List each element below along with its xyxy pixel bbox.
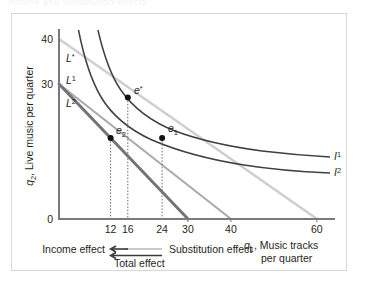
budget-line-l1 (59, 84, 231, 219)
indifference-curve-i1 (98, 30, 330, 157)
point-e2[interactable] (108, 135, 114, 141)
y-tick-label-0: 0 (47, 213, 53, 225)
point-e-star[interactable] (125, 95, 131, 101)
budget-line-l2 (59, 84, 188, 219)
figure-panel: 40 30 0 12 16 24 30 40 60 q2, Live music… (11, 13, 347, 271)
total-effect-label: Total effect (114, 257, 165, 269)
point-label-e1: e1 (168, 122, 178, 137)
l1-sup: 1 (72, 74, 76, 83)
e1-sub: 1 (174, 128, 178, 137)
indifference-curve-i2 (79, 30, 331, 173)
indifference-curve-label-i1: I1 (334, 150, 341, 163)
y-tick-label-40: 40 (41, 33, 53, 45)
x-tick-label-16: 16 (122, 223, 134, 235)
budget-line-label-l1: L1 (66, 74, 76, 87)
svg-text:q2, Live music per quarter: q2, Live music per quarter (23, 66, 38, 186)
l2-sup: 2 (72, 97, 76, 106)
budget-line-label-l-star: L* (66, 52, 75, 65)
income-effect-label: Income effect (42, 243, 105, 255)
x-tick-label-30: 30 (182, 223, 194, 235)
point-label-e2: e2 (116, 124, 126, 139)
point-e1[interactable] (159, 135, 165, 141)
x-tick-label-12: 12 (105, 223, 117, 235)
point-label-e-star: e* (134, 84, 143, 97)
cropped-caption-text: income and substitution effects (8, 0, 370, 7)
y-axis-title-rest: , Live music per quarter (23, 66, 35, 176)
i1-sup: 1 (337, 150, 341, 159)
i2-sup: 2 (337, 166, 341, 175)
budget-line-l-star (59, 39, 317, 219)
y-tick-label-30: 30 (41, 78, 53, 90)
x-tick-label-60: 60 (311, 223, 323, 235)
e2-sub: 2 (122, 130, 126, 139)
chart-svg: 40 30 0 12 16 24 30 40 60 q2, Live music… (12, 14, 346, 270)
y-axis-title: q2, Live music per quarter (23, 66, 38, 186)
x-axis-title-rest: , Music tracks (254, 239, 318, 251)
x-axis-title-line2: per quarter (261, 252, 313, 264)
budget-line-label-l2: L2 (66, 97, 76, 110)
substitution-effect-label: Substitution effect (169, 243, 252, 255)
l-star-sup: * (72, 52, 75, 61)
indifference-curve-label-i2: I2 (334, 166, 341, 179)
e-star-sup: * (140, 84, 143, 93)
x-tick-label-24: 24 (156, 223, 168, 235)
cropped-caption-remnant: income and substitution effects (0, 0, 370, 9)
x-tick-label-40: 40 (225, 223, 237, 235)
